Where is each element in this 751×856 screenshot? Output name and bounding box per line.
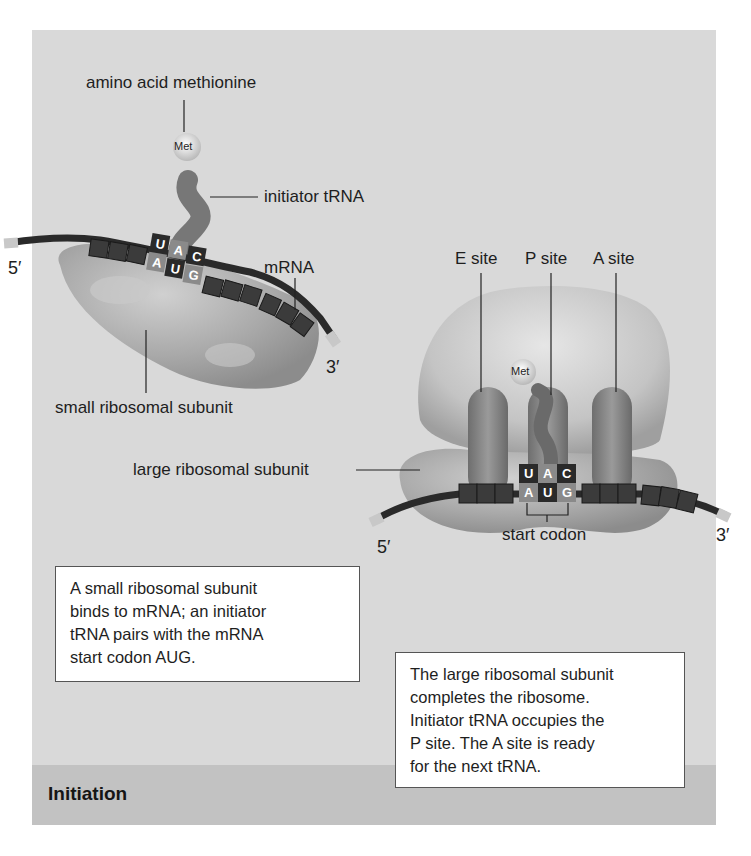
codon-base: U [543,485,552,500]
label-start-codon: start codon [502,525,586,545]
caption-line: Initiator tRNA occupies the [410,709,670,732]
a-site-pillar [592,387,632,497]
anticodon-base: A [173,242,185,258]
label-amino-acid-methionine: amino acid methionine [86,73,256,93]
anticodon-base: A [543,466,552,481]
caption-line: completes the ribosome. [410,686,670,709]
codon-base: A [151,255,163,271]
caption-line: start codon AUG. [70,646,345,669]
label-met-step2: Met [511,365,529,377]
caption-step1: A small ribosomal subunit binds to mRNA;… [55,566,360,682]
anticodon-base: U [155,236,167,252]
label-met: Met [174,140,192,152]
label-five-prime-step2: 5′ [377,537,390,558]
codon-base: A [524,485,533,500]
codon-base: G [562,485,572,500]
codon-base: U [169,261,181,277]
label-five-prime: 5′ [8,258,21,279]
label-a-site: A site [593,249,635,269]
anticodon-base: U [524,466,533,481]
caption-line: binds to mRNA; an initiator [70,600,345,623]
anticodon-base: C [191,248,203,264]
anticodon-base: C [562,466,571,481]
label-initiator-trna: initiator tRNA [264,187,364,207]
caption-line: The large ribosomal subunit [410,663,670,686]
e-site-pillar [468,387,508,497]
codon-letters-step2: U A C A U G [519,464,576,502]
label-three-prime: 3′ [326,357,339,378]
label-large-ribosomal-subunit: large ribosomal subunit [133,460,309,480]
caption-line: tRNA pairs with the mRNA [70,623,345,646]
label-p-site: P site [525,249,567,269]
label-small-ribosomal-subunit: small ribosomal subunit [55,398,233,418]
label-e-site: E site [455,249,498,269]
caption-line: A small ribosomal subunit [70,577,345,600]
label-three-prime-step2: 3′ [716,525,729,546]
label-mrna: mRNA [264,258,314,278]
caption-line: P site. The A site is ready [410,732,670,755]
caption-line: for the next tRNA. [410,755,670,778]
caption-step2: The large ribosomal subunit completes th… [395,652,685,788]
